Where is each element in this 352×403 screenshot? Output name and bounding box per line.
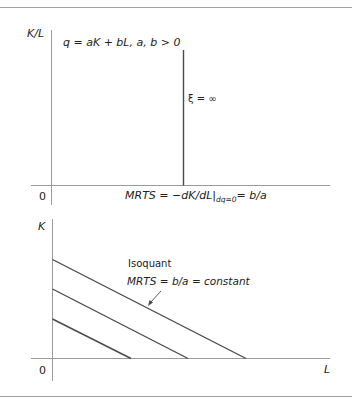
top-origin-label: 0 — [39, 191, 46, 202]
top-y-axis-label: K/L — [27, 28, 44, 39]
annotation-arrow-shaft — [150, 291, 161, 303]
constant-mrts-label: MRTS = b/a = constant — [127, 276, 250, 287]
bottom-origin-label: 0 — [39, 365, 46, 376]
production-function-equation: q = aK + bL, a, b > 0 — [63, 37, 180, 48]
elasticity-label: ξ = ∞ — [188, 94, 217, 104]
bottom-y-axis-label: K — [38, 221, 45, 232]
mrts-result: = b/a — [237, 189, 267, 202]
mrts-subscript: dq=0 — [216, 195, 237, 204]
isoquant-label: Isoquant — [128, 259, 171, 269]
mrts-axis-label: MRTS = −dK/dL|dq=0= b/a — [125, 190, 267, 204]
isoquant-line-low — [53, 319, 132, 359]
bottom-x-axis-label: L — [324, 364, 330, 375]
mrts-formula: MRTS = −dK/dL| — [125, 189, 216, 202]
isoquant-line-mid — [53, 289, 189, 359]
